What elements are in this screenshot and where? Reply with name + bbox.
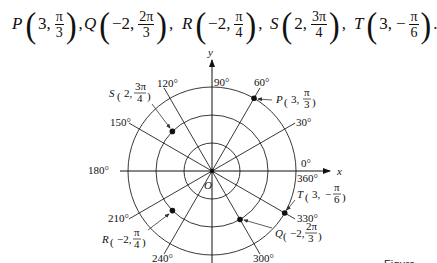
right-paren: ) — [147, 90, 151, 103]
figure-caption: Figure 8.4 — [384, 256, 433, 263]
arrow-to-r — [148, 214, 169, 230]
label-den: 4 — [134, 238, 140, 250]
angle-label-120: 120° — [157, 77, 178, 89]
label-num: 2π — [306, 220, 318, 232]
angle-label-150: 150° — [110, 116, 131, 128]
separator: . — [433, 14, 437, 34]
label-den: 6 — [334, 193, 340, 205]
right-paren: ) — [342, 191, 346, 204]
origin-label: O — [204, 179, 212, 191]
point-t-dot — [282, 210, 288, 216]
right-paren: ) — [312, 96, 316, 109]
arrow-to-s — [152, 104, 170, 128]
label-r: −2, — [290, 227, 305, 239]
angle-label-360: 360° — [297, 172, 318, 184]
label-r: 2, — [124, 87, 133, 99]
label-t: T ( 3, − π 6 ) — [297, 181, 346, 205]
label-num: π — [134, 226, 140, 238]
point-s-dot — [170, 129, 176, 135]
angle-label-240: 240° — [152, 252, 173, 263]
angle-label-180: 180° — [88, 164, 109, 176]
label-r: −2, — [117, 233, 132, 245]
arrow-to-p — [258, 99, 272, 100]
label-den: 4 — [137, 92, 143, 104]
label-sign: − — [325, 188, 331, 200]
point-p-dot — [251, 96, 257, 102]
label-r: R ( −2, π 4 ) — [101, 226, 146, 250]
plotted-points — [170, 96, 288, 223]
angle-label-300: 300° — [253, 252, 274, 263]
x-axis-label: x — [336, 165, 342, 177]
label-r: 3, — [312, 188, 321, 200]
label-name: R — [101, 233, 109, 245]
label-name: P — [275, 93, 283, 105]
left-paren: ( — [110, 236, 114, 249]
label-s: S ( 2, 3π 4 ) — [109, 80, 151, 104]
arrow-to-q — [244, 220, 272, 228]
label-den: 3 — [308, 232, 314, 244]
y-axis-label: y — [207, 46, 213, 58]
left-paren: ( — [283, 230, 287, 243]
angle-label-60: 60° — [254, 76, 269, 88]
right-paren: ) — [318, 230, 322, 243]
label-name: Q — [275, 227, 283, 239]
label-den: 3 — [304, 98, 310, 110]
right-paren: ) — [142, 236, 146, 249]
left-paren: ( — [117, 90, 121, 103]
point-q-dot — [237, 217, 243, 223]
label-r: 3, — [291, 93, 300, 105]
angle-label-210: 210° — [108, 212, 129, 224]
label-p: P ( 3, π 3 ) — [275, 86, 316, 110]
angle-label-0: 0° — [301, 157, 311, 169]
label-num: 3π — [135, 80, 147, 92]
angle-label-90: 90° — [214, 76, 229, 88]
left-paren: ( — [284, 96, 288, 109]
label-name: T — [297, 188, 304, 200]
label-num: π — [304, 86, 310, 98]
label-num: π — [334, 181, 340, 193]
angle-label-30: 30° — [296, 116, 311, 128]
point-r-dot — [170, 208, 176, 214]
label-name: S — [109, 87, 115, 99]
arrow-to-t — [287, 200, 295, 210]
origin-dot — [210, 169, 214, 173]
left-paren: ( — [305, 191, 309, 204]
